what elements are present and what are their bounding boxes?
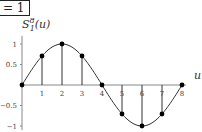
data-point (140, 124, 145, 129)
x-tick-label: 2 (60, 90, 64, 98)
data-point (60, 42, 65, 47)
data-point (80, 54, 85, 59)
data-point (120, 112, 125, 117)
y-tick-label: 1 (13, 41, 17, 49)
data-point (180, 83, 185, 88)
y-tick-label: 0.5 (6, 61, 17, 69)
data-point (40, 54, 45, 59)
x-tick-label: 1 (40, 90, 44, 98)
y-tick-label: −0.5 (0, 102, 17, 110)
y-tick-label: −1 (7, 123, 17, 131)
data-point (20, 83, 25, 88)
data-point (160, 112, 165, 117)
x-tick-label: 4 (100, 90, 105, 98)
data-point (100, 83, 105, 88)
x-tick-label: 3 (80, 90, 84, 98)
x-axis-label: u (194, 69, 201, 82)
chart-plot: 1234567810.5−0.5−1u (0, 0, 202, 132)
x-tick-label: 8 (180, 90, 184, 98)
